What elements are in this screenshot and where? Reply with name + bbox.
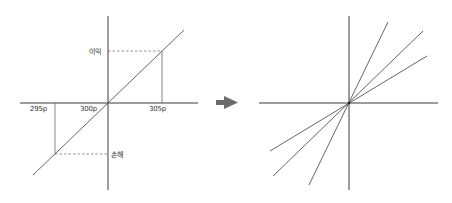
left-diagram xyxy=(20,16,198,190)
price-mid-label: 300p xyxy=(80,105,97,113)
origin-point xyxy=(348,102,351,105)
right-arrow-icon xyxy=(216,96,238,109)
diagram-canvas xyxy=(0,0,452,203)
right-diagram xyxy=(259,16,438,190)
price-low-label: 295p xyxy=(30,105,47,113)
price-high-label: 305p xyxy=(149,105,166,113)
profit-label: 이익 xyxy=(89,46,101,56)
loss-label: 손해 xyxy=(111,149,123,159)
